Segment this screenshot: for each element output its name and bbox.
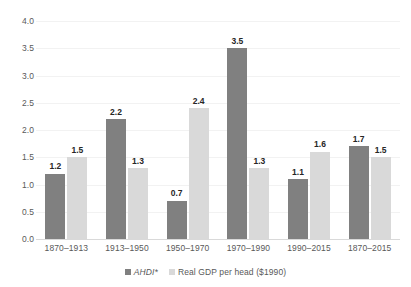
bar-wrap-series-1[interactable]: 2.4 <box>189 21 209 239</box>
bar-series-1[interactable] <box>128 168 148 239</box>
y-axis-tick: 1.0 <box>0 180 34 190</box>
x-axis-line <box>36 239 400 240</box>
y-axis-tick: 3.5 <box>0 43 34 53</box>
x-axis-tick: 1913–1950 <box>97 243 158 253</box>
bar-wrap-series-0[interactable]: 1.7 <box>349 21 369 239</box>
bar-value-label: 1.6 <box>314 140 326 149</box>
bar-wrap-series-1[interactable]: 1.5 <box>371 21 391 239</box>
bar-group: 1.2 1.5 <box>36 21 97 239</box>
y-axis-tick: 1.5 <box>0 152 34 162</box>
y-axis-tick: 0.0 <box>0 234 34 244</box>
bar-wrap-series-1[interactable]: 1.6 <box>310 21 330 239</box>
bar-value-label: 1.1 <box>292 168 304 177</box>
y-axis-tick: 0.5 <box>0 207 34 217</box>
bar-value-label: 2.2 <box>110 108 122 117</box>
bar-series-0[interactable] <box>349 146 369 239</box>
x-axis-tick: 1990–2015 <box>279 243 340 253</box>
bar-value-label: 1.2 <box>49 162 61 171</box>
bar-groups: 1.2 1.5 2.2 1.3 <box>36 21 400 239</box>
bar-value-label: 1.7 <box>353 135 365 144</box>
x-axis-tick: 1870–2015 <box>339 243 400 253</box>
bar-pair: 1.1 1.6 <box>279 21 340 239</box>
bar-series-0[interactable] <box>45 174 65 239</box>
bar-wrap-series-0[interactable]: 2.2 <box>106 21 126 239</box>
legend-item-ahdi[interactable]: AHDI* <box>125 267 158 277</box>
bar-group: 3.5 1.3 <box>218 21 279 239</box>
x-axis-labels: 1870–1913 1913–1950 1950–1970 1970–1990 … <box>36 243 400 253</box>
bar-wrap-series-0[interactable]: 0.7 <box>167 21 187 239</box>
bar-series-0[interactable] <box>227 48 247 239</box>
bar-series-1[interactable] <box>67 157 87 239</box>
bar-group: 2.2 1.3 <box>97 21 158 239</box>
bar-wrap-series-1[interactable]: 1.3 <box>249 21 269 239</box>
bar-value-label: 1.5 <box>71 146 83 155</box>
chart-legend: AHDI* Real GDP per head ($1990) <box>0 267 411 277</box>
y-axis-tick: 2.5 <box>0 98 34 108</box>
bar-series-1[interactable] <box>371 157 391 239</box>
bar-value-label: 1.5 <box>375 146 387 155</box>
bar-pair: 2.2 1.3 <box>97 21 158 239</box>
bar-pair: 1.7 1.5 <box>339 21 400 239</box>
bar-value-label: 2.4 <box>193 97 205 106</box>
bar-pair: 0.7 2.4 <box>157 21 218 239</box>
bar-series-1[interactable] <box>249 168 269 239</box>
x-axis-tick: 1870–1913 <box>36 243 97 253</box>
bar-value-label: 1.3 <box>253 157 265 166</box>
legend-label: AHDI* <box>134 267 158 277</box>
bar-pair: 1.2 1.5 <box>36 21 97 239</box>
bar-series-0[interactable] <box>288 179 308 239</box>
bar-group: 1.7 1.5 <box>339 21 400 239</box>
bar-series-0[interactable] <box>167 201 187 239</box>
bar-series-1[interactable] <box>310 152 330 239</box>
bar-wrap-series-1[interactable]: 1.3 <box>128 21 148 239</box>
bar-series-1[interactable] <box>189 108 209 239</box>
bar-chart: 4.0 3.5 3.0 2.5 2.0 1.5 1.0 0.5 0.0 1.2 … <box>0 0 411 287</box>
legend-swatch-icon <box>169 269 175 275</box>
legend-item-real-gdp-per-head[interactable]: Real GDP per head ($1990) <box>169 267 286 277</box>
bar-wrap-series-0[interactable]: 1.1 <box>288 21 308 239</box>
y-axis-tick: 3.0 <box>0 71 34 81</box>
bar-series-0[interactable] <box>106 119 126 239</box>
bar-value-label: 0.7 <box>171 189 183 198</box>
y-axis: 4.0 3.5 3.0 2.5 2.0 1.5 1.0 0.5 0.0 <box>0 21 34 239</box>
bar-group: 1.1 1.6 <box>279 21 340 239</box>
bar-value-label: 1.3 <box>132 157 144 166</box>
bar-pair: 3.5 1.3 <box>218 21 279 239</box>
y-axis-tick: 4.0 <box>0 16 34 26</box>
x-axis-tick: 1950–1970 <box>157 243 218 253</box>
x-axis-tick: 1970–1990 <box>218 243 279 253</box>
bar-wrap-series-1[interactable]: 1.5 <box>67 21 87 239</box>
bar-value-label: 3.5 <box>231 37 243 46</box>
y-axis-tick: 2.0 <box>0 125 34 135</box>
legend-swatch-icon <box>125 269 131 275</box>
legend-label: Real GDP per head ($1990) <box>178 267 286 277</box>
bar-group: 0.7 2.4 <box>157 21 218 239</box>
bar-wrap-series-0[interactable]: 3.5 <box>227 21 247 239</box>
bar-wrap-series-0[interactable]: 1.2 <box>45 21 65 239</box>
